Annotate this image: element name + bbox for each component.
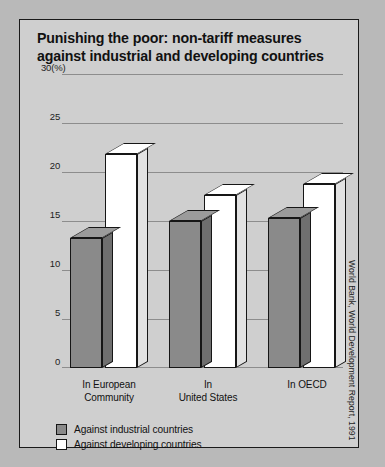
bar-side-face	[300, 212, 311, 368]
bar-industrial-1	[169, 221, 201, 368]
bar-front-face	[70, 238, 102, 368]
y-tick-label-5: 5	[38, 307, 60, 318]
legend-swatch-gray	[56, 424, 67, 435]
y-tick-label-0: 0	[38, 356, 60, 367]
legend-item-1: Against developing countries	[56, 439, 201, 450]
x-axis-label-line: In European	[54, 379, 164, 392]
y-tick-label-20: 20	[38, 160, 60, 171]
legend-swatch-white	[56, 439, 67, 450]
legend-label: Against developing countries	[74, 439, 201, 450]
chart-figure: Punishing the poor: non-tariff measures …	[19, 19, 359, 448]
bar-side-face	[137, 148, 148, 368]
x-axis-label-line: United States	[153, 392, 263, 405]
chart-title: Punishing the poor: non-tariff measures …	[37, 30, 337, 65]
bar-industrial-0	[70, 238, 102, 368]
bar-top-face	[204, 184, 255, 195]
legend-item-0: Against industrial countries	[56, 424, 201, 435]
x-axis-label-line: In	[153, 379, 263, 392]
plot-area: 051015202530(%)	[38, 74, 343, 368]
x-axis-label-2: In OECD	[252, 379, 362, 392]
x-axis-label-line: Community	[54, 392, 164, 405]
bar-industrial-2	[268, 218, 300, 368]
chart-legend: Against industrial countriesAgainst deve…	[56, 424, 201, 454]
bar-side-face	[236, 188, 247, 368]
y-tick-label-30: 30(%)	[41, 62, 81, 73]
y-tick-label-10: 10	[38, 258, 60, 269]
x-axis-label-0: In EuropeanCommunity	[54, 379, 164, 404]
y-tick-label-15: 15	[38, 209, 60, 220]
bar-front-face	[169, 221, 201, 368]
x-axis-label-1: InUnited States	[153, 379, 263, 404]
bar-side-face	[335, 177, 346, 368]
legend-label: Against industrial countries	[74, 424, 193, 435]
gridline-30	[62, 74, 343, 75]
bar-top-face	[303, 173, 354, 184]
y-tick-label-25: 25	[38, 111, 60, 122]
source-note: World Bank, World Development Report, 19…	[347, 260, 357, 441]
gridline-25	[62, 123, 343, 124]
bar-side-face	[201, 215, 212, 368]
bar-top-face	[105, 143, 156, 154]
bar-front-face	[268, 218, 300, 368]
bar-side-face	[102, 231, 113, 368]
x-axis-label-line: In OECD	[252, 379, 362, 392]
